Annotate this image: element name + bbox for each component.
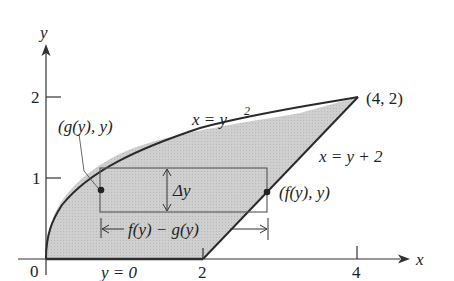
x-axis-label: x <box>415 250 424 269</box>
left-point-dot <box>98 187 105 194</box>
x-tick-label-2: 2 <box>198 263 207 281</box>
right-point-label: (f(y), y) <box>279 183 330 202</box>
y-axis-label: y <box>38 23 48 42</box>
region-diagram: y x 2 1 0 2 4 y = 0 (4, 2) x = y 2 x = y… <box>0 0 454 281</box>
y-tick-label-2: 2 <box>31 88 40 107</box>
x-tick-label-0: 0 <box>30 262 39 281</box>
parabola-exponent: 2 <box>244 104 250 118</box>
parabola-label: x = y <box>191 110 228 129</box>
bottom-boundary-label: y = 0 <box>99 263 138 281</box>
right-point-dot <box>264 189 271 196</box>
corner-point-label: (4, 2) <box>366 89 403 108</box>
diagram-canvas: y x 2 1 0 2 4 y = 0 (4, 2) x = y 2 x = y… <box>0 0 454 281</box>
x-tick-label-4: 4 <box>352 263 361 281</box>
line-label: x = y + 2 <box>318 147 383 166</box>
delta-y-label: Δy <box>172 181 191 200</box>
y-tick-label-1: 1 <box>32 169 41 188</box>
left-point-label: (g(y), y) <box>58 117 113 136</box>
strip-width-label: f(y) − g(y) <box>128 220 199 239</box>
